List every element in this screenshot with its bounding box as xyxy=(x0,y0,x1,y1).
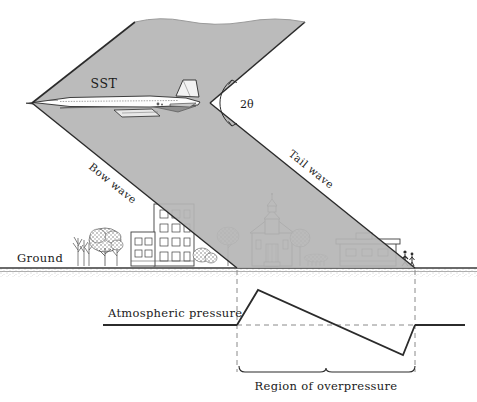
shock-cone xyxy=(32,19,415,268)
angle-label: 2θ xyxy=(240,98,254,111)
sonic-boom-diagram: SST 2θ Bow wave Tail wave Ground Atmosph… xyxy=(0,0,477,402)
pressure-plot: Atmospheric pressure Region of overpress… xyxy=(103,270,465,393)
shrub-group-mid xyxy=(193,248,217,263)
ground-label: Ground xyxy=(17,251,63,265)
aircraft-engine-nacelle xyxy=(114,109,160,117)
region-of-overpressure-label: Region of overpressure xyxy=(255,379,398,393)
region-brace xyxy=(239,366,415,372)
n-wave-pressure-curve xyxy=(237,290,415,355)
shock-cone-fill xyxy=(32,19,415,268)
aircraft-label: SST xyxy=(90,76,117,91)
atmospheric-pressure-label: Atmospheric pressure xyxy=(107,306,242,320)
tree-small-right-of-large xyxy=(111,240,123,266)
ground-texture xyxy=(0,268,477,277)
diagram-canvas: SST 2θ Bow wave Tail wave Ground Atmosph… xyxy=(0,0,477,402)
